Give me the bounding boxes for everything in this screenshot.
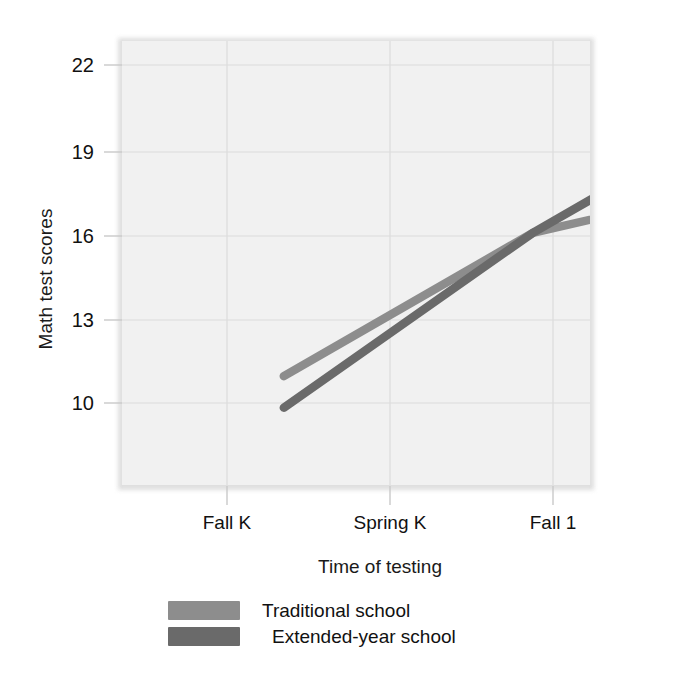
x-tick-label-fall-1: Fall 1 [473,512,633,534]
x-axis-title: Time of testing [280,556,480,578]
chart-legend: Traditional school Extended-year school [168,598,588,650]
legend-item-extended-year-school: Extended-year school [168,624,588,650]
line-chart-figure: Math test scores 22 19 16 13 10 [0,0,681,684]
legend-swatch-traditional-school [168,601,240,620]
legend-item-traditional-school: Traditional school [168,598,588,624]
x-axis-tick-labels: Fall K Spring K Fall 1 [0,0,681,684]
x-tick-label-fall-k: Fall K [147,512,307,534]
legend-swatch-extended-year-school [168,627,240,646]
x-tick-label-spring-k: Spring K [310,512,470,534]
legend-label-extended-year-school: Extended-year school [272,624,456,650]
legend-label-traditional-school: Traditional school [262,598,410,624]
